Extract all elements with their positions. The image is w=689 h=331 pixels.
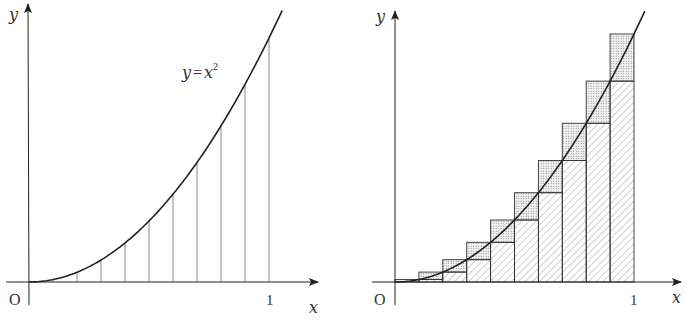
- y-axis: [28, 4, 29, 305]
- lower-rect: [610, 81, 634, 282]
- tick-one-label: 1: [630, 292, 638, 308]
- origin-label: O: [9, 291, 21, 308]
- x-axis-label: x: [309, 298, 318, 317]
- curve-label: y=x2: [181, 61, 218, 82]
- riemann-rectangles: [395, 34, 634, 282]
- parabola-curve: [29, 10, 282, 282]
- lower-rect: [491, 242, 515, 282]
- origin-label: O: [374, 291, 386, 308]
- y-axis-label: y: [8, 5, 19, 24]
- lower-rect: [443, 272, 467, 282]
- lower-rect: [562, 160, 586, 282]
- y-axis-label: y: [375, 7, 386, 26]
- lower-rect: [515, 220, 539, 282]
- figure-canvas: y O 1 x y=x2 y O 1 x: [0, 0, 689, 331]
- left-figure: y O 1 x y=x2: [6, 4, 318, 317]
- lower-rect: [467, 260, 491, 282]
- tick-one-label: 1: [266, 292, 274, 308]
- x-axis-label: x: [672, 288, 681, 307]
- partition-lines: [53, 38, 269, 282]
- right-figure: y O 1 x: [372, 7, 681, 308]
- lower-rect: [586, 123, 610, 282]
- lower-rect: [538, 193, 562, 282]
